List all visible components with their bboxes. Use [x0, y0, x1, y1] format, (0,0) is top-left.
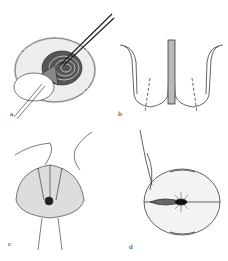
panel-label-c: c [8, 240, 11, 247]
panel-label-d: d [129, 243, 133, 250]
figure-canvas [0, 0, 228, 261]
panel-label-a: a [10, 110, 14, 117]
panel-d-illustration [140, 130, 220, 235]
panel-a-illustration [14, 14, 114, 119]
panel-label-b: b [118, 110, 122, 117]
panel-b-illustration [120, 40, 223, 112]
panel-c-illustration [15, 132, 92, 250]
